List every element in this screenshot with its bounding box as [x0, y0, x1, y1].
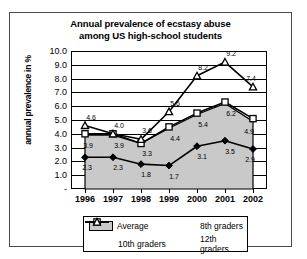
data-label-average: 4.4 — [170, 135, 180, 142]
data-label-8th: 1.8 — [141, 171, 151, 178]
open-triangle-marker-icon — [171, 239, 197, 249]
data-label-8th: 3.5 — [225, 147, 235, 154]
data-label-12th: 5.6 — [170, 99, 180, 106]
legend-label-8th: 8th graders — [200, 221, 243, 231]
data-label-12th: 4.0 — [114, 121, 124, 128]
x-tick-label: 2001 — [215, 194, 235, 204]
x-tick-mark — [169, 189, 170, 193]
data-label-average: 4.9 — [244, 128, 254, 135]
data-label-average: 3.9 — [83, 142, 93, 149]
y-tick-label: - — [64, 184, 67, 194]
x-tick-label: 1996 — [75, 194, 95, 204]
data-label-12th: 3.6 — [142, 127, 152, 134]
x-tick-label: 1999 — [159, 194, 179, 204]
plot-area: -1.02.03.04.05.06.07.08.09.010.0 3.93.93… — [71, 51, 267, 189]
legend-label-average: Average — [117, 221, 149, 231]
data-label-average: 3.3 — [142, 150, 152, 157]
y-tick-label: 9.0 — [54, 60, 67, 70]
legend-label-10th: 10th graders — [118, 239, 166, 249]
legend-item-8th[interactable]: 8th graders — [171, 221, 247, 231]
y-tick-label: 4.0 — [54, 129, 67, 139]
y-tick-label: 5.0 — [54, 115, 67, 125]
chart-title-line2: among US high-school students — [10, 30, 291, 42]
data-label-average: 6.2 — [226, 110, 236, 117]
x-tick-mark — [85, 189, 86, 193]
data-label-8th: 2.3 — [113, 164, 123, 171]
x-tick-label: 1998 — [131, 194, 151, 204]
open-square-marker-icon — [89, 239, 115, 249]
legend-item-10th[interactable]: 10th graders — [84, 239, 171, 249]
series-layer — [71, 51, 267, 189]
x-tick-label: 1997 — [103, 194, 123, 204]
x-tick-mark — [141, 189, 142, 193]
data-label-12th: 4.6 — [86, 113, 96, 120]
data-label-average: 5.4 — [198, 121, 208, 128]
data-label-12th: 9.2 — [226, 50, 236, 57]
chart-frame: Annual prevalence of ecstasy abuse among… — [9, 12, 292, 247]
y-tick-label: 10.0 — [49, 46, 67, 56]
y-axis-label: annual prevalence in % — [23, 40, 33, 160]
y-tick-label: 3.0 — [54, 143, 67, 153]
y-tick-label: 2.0 — [54, 156, 67, 166]
x-tick-mark — [253, 189, 254, 193]
legend-item-12th[interactable]: 12th graders — [171, 234, 247, 254]
chart-title: Annual prevalence of ecstasy abuse among… — [10, 18, 291, 42]
data-label-12th: 7.4 — [246, 74, 256, 81]
chart-legend: Average 8th graders — [83, 216, 248, 252]
y-tick-label: 7.0 — [54, 87, 67, 97]
data-label-average: 3.9 — [114, 142, 124, 149]
filled-diamond-marker-icon — [171, 221, 197, 231]
x-tick-mark — [197, 189, 198, 193]
x-tick-label: 2002 — [243, 194, 263, 204]
data-label-8th: 2.3 — [82, 164, 92, 171]
x-tick-mark — [225, 189, 226, 193]
y-tick-label: 8.0 — [54, 74, 67, 84]
data-label-8th: 1.7 — [169, 172, 179, 179]
x-tick-mark — [113, 189, 114, 193]
y-tick-label: 1.0 — [54, 170, 67, 180]
legend-label-12th: 12th graders — [200, 234, 247, 254]
data-label-12th: 8.2 — [198, 63, 208, 70]
y-tick-label: 6.0 — [54, 101, 67, 111]
legend-row-2: 10th graders 12th graders — [84, 235, 247, 253]
x-tick-label: 2000 — [187, 194, 207, 204]
chart-title-line1: Annual prevalence of ecstasy abuse — [70, 18, 230, 29]
data-label-8th: 3.1 — [197, 153, 207, 160]
data-label-8th: 2.9 — [245, 155, 255, 162]
